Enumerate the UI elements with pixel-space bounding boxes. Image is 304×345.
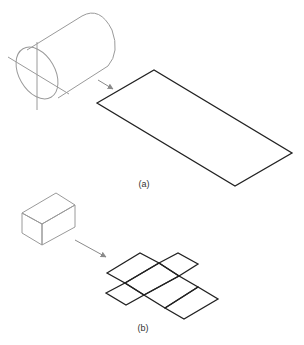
panel-label-b: (b) bbox=[138, 323, 149, 333]
unrolled-rectangle bbox=[97, 70, 292, 186]
arrow-b bbox=[75, 240, 106, 257]
figure-canvas bbox=[0, 0, 304, 345]
panel-label-a: (a) bbox=[139, 179, 150, 189]
box-net bbox=[106, 253, 218, 319]
arrow-a bbox=[98, 80, 113, 89]
cylinder-shape bbox=[7, 13, 115, 110]
box-shape bbox=[22, 193, 75, 245]
